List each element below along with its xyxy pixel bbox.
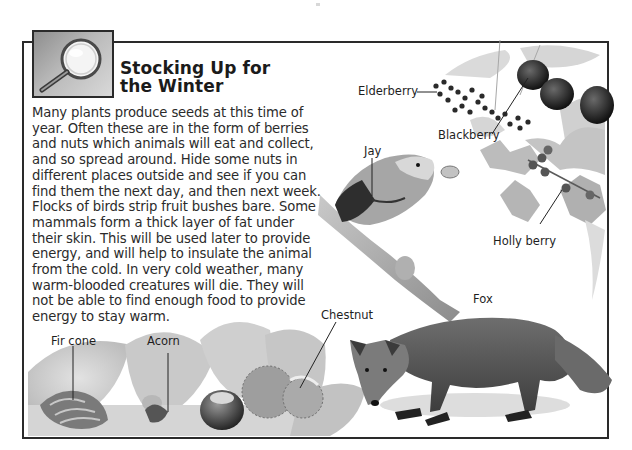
label-fir-cone: Fir cone <box>51 334 96 348</box>
body-line: warm-blooded creatures will die. They wi… <box>32 278 332 294</box>
body-line: year. Often these are in the form of ber… <box>32 121 332 137</box>
body-line: energy, and will help to insulate the an… <box>32 246 332 262</box>
body-line: their skin. This will be used later to p… <box>32 231 332 247</box>
jay-art <box>335 154 459 225</box>
body-line: not be able to find enough food to provi… <box>32 293 332 309</box>
label-chestnut: Chestnut <box>321 308 373 322</box>
label-fox: Fox <box>473 292 493 306</box>
body-line: Flocks of birds strip fruit bushes bare.… <box>32 199 332 215</box>
label-blackberry: Blackberry <box>438 128 500 142</box>
body-line: Many plants produce seeds at this time o… <box>32 105 332 121</box>
label-elderberry: Elderberry <box>358 84 418 98</box>
title-line-2: the Winter <box>120 77 270 95</box>
label-jay: Jay <box>364 144 381 158</box>
body-line: find them the next day, and then next we… <box>32 184 332 200</box>
body-paragraph: Many plants produce seeds at this time o… <box>32 105 332 325</box>
body-line: and nuts which animals will eat and coll… <box>32 136 332 152</box>
magnifying-glass-icon <box>32 30 114 98</box>
holly-art <box>480 127 606 300</box>
body-line: mammals form a thick layer of fat under <box>32 215 332 231</box>
body-line: and so spread around. Hide some nuts in <box>32 152 332 168</box>
fox-art <box>350 318 612 426</box>
page-title: Stocking Up for the Winter <box>120 59 270 95</box>
label-holly-berry: Holly berry <box>493 234 556 248</box>
title-line-1: Stocking Up for <box>120 59 270 77</box>
body-line: from the cold. In very cold weather, man… <box>32 262 332 278</box>
body-line: different places outside and see if you … <box>32 168 332 184</box>
label-acorn: Acorn <box>147 334 180 348</box>
body-line: energy to stay warm. <box>32 309 332 325</box>
